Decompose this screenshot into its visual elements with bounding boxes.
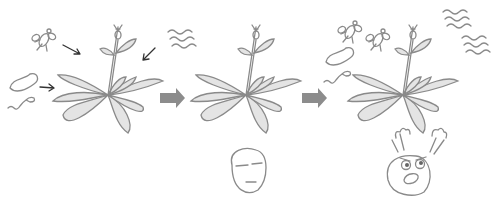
panel-3-plant	[348, 25, 458, 133]
process-arrow-2	[302, 88, 327, 108]
wind-stress-icon-1	[443, 10, 471, 28]
wind-stress-icon-2	[462, 36, 490, 54]
calm-face-icon	[231, 149, 266, 193]
panel-1-plant	[53, 25, 163, 133]
diagram-svg	[0, 0, 497, 216]
pathogen-icon-3	[324, 48, 353, 83]
wind-stress-icon	[168, 30, 196, 48]
diagram-canvas	[0, 0, 497, 216]
panel-2-plant	[191, 25, 301, 133]
pathogen-icon	[8, 74, 37, 109]
process-arrow-1	[160, 88, 185, 108]
insect-icon-1	[337, 21, 363, 43]
insect-icon	[31, 29, 57, 51]
angry-face-icon	[387, 128, 446, 195]
insect-icon-2	[365, 29, 391, 51]
